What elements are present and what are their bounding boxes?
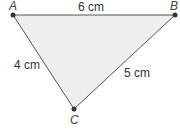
side-bc-label: 5 cm — [124, 66, 150, 80]
side-ab-label: 6 cm — [78, 0, 104, 14]
side-ac-label: 4 cm — [14, 58, 40, 72]
vertex-b-point — [173, 13, 178, 18]
triangle-diagram: A B C 6 cm 4 cm 5 cm — [0, 0, 180, 136]
vertex-c-point — [72, 107, 77, 112]
vertex-c-label: C — [70, 113, 79, 127]
triangle-svg: A B C 6 cm 4 cm 5 cm — [0, 0, 180, 136]
vertex-b-label: B — [170, 0, 178, 13]
vertex-a-label: A — [8, 0, 17, 13]
vertex-a-point — [11, 13, 16, 18]
